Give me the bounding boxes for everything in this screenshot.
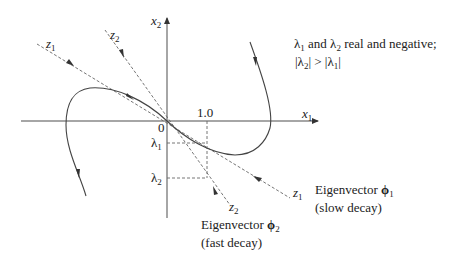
- lambda2-tick-label: λ2: [151, 171, 162, 189]
- annotation-line2: |λ2| > |λ1|: [295, 55, 341, 73]
- ann-real-negative: real and negative;: [341, 36, 437, 51]
- x2-axis-label: x2: [151, 14, 161, 32]
- ann2-gt: | > |λ: [308, 54, 333, 69]
- z1-upper-arrow-icon: [66, 59, 74, 66]
- z2-lower-arrow-icon: [213, 186, 218, 195]
- x1-axis-label: x1: [302, 107, 312, 125]
- z1-upper-label: z1: [46, 37, 56, 55]
- ev2-title-text: Eigenvector: [201, 217, 267, 232]
- phi2-sub: 2: [275, 224, 280, 234]
- eigenvector2-title: Eigenvector ϕ2: [201, 218, 280, 236]
- x1-label-sub: 1: [308, 113, 313, 123]
- eigenvector2-note: (fast decay): [201, 236, 262, 250]
- z2-upper-sub: 2: [115, 34, 120, 44]
- lambda2-sub: 2: [157, 177, 162, 187]
- z2-upper-label: z2: [110, 28, 120, 46]
- z1-lower-sub: 1: [298, 192, 303, 202]
- ann2-abs-lambda2: |λ: [295, 54, 304, 69]
- z2-upper-arrow-icon: [119, 49, 124, 58]
- z1-lower-label: z1: [293, 186, 303, 204]
- eigenvector1-title: Eigenvector ϕ1: [315, 183, 394, 201]
- ann2-close-bar: |: [338, 54, 341, 69]
- lambda1-tick-label: λ1: [151, 136, 162, 154]
- trajectory-right-arrow-icon: [253, 57, 257, 66]
- x-tick-1.0: 1.0: [197, 106, 213, 120]
- eigenvector1-note: (slow decay): [315, 201, 382, 215]
- z1-upper-sub: 1: [51, 43, 56, 53]
- z1-lower-arrow-icon: [253, 176, 262, 182]
- z2-lower-label: z2: [229, 200, 239, 218]
- ev1-title-text: Eigenvector: [315, 182, 381, 197]
- ann-and: and: [305, 36, 330, 51]
- z2-lower-sub: 2: [234, 206, 239, 216]
- origin-label: 0: [158, 121, 165, 135]
- x2-label-sub: 2: [157, 20, 162, 30]
- phi1-symbol: ϕ: [381, 182, 389, 197]
- phi1-sub: 1: [389, 189, 394, 199]
- annotation-line1: λ1 and λ2 real and negative;: [294, 37, 437, 55]
- phi2-symbol: ϕ: [267, 217, 275, 232]
- lambda1-sub: 1: [157, 142, 162, 152]
